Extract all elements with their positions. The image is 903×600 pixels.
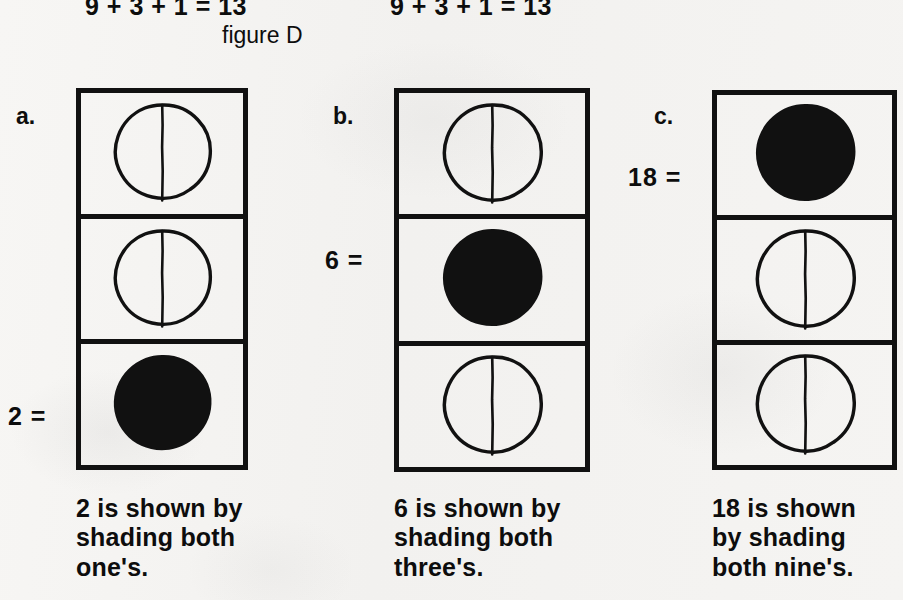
box-b-cell-3 bbox=[399, 346, 585, 467]
top-equation-left: 9 + 3 + 1 = 13 bbox=[85, 0, 247, 21]
column-letter-a: a. bbox=[16, 103, 35, 130]
box-c-cell-3 bbox=[717, 345, 892, 465]
value-label-c: 18 = bbox=[628, 163, 681, 192]
figure-caption: figure D bbox=[222, 22, 303, 49]
column-letter-c: c. bbox=[654, 103, 673, 130]
caption-a: 2 is shown by shading both one's. bbox=[76, 494, 306, 582]
split-circle-open-icon bbox=[752, 227, 858, 333]
split-circle-open-icon bbox=[439, 353, 545, 459]
box-a-cell-1 bbox=[81, 93, 243, 219]
value-label-b: 6 = bbox=[325, 246, 363, 275]
top-equation-right: 9 + 3 + 1 = 13 bbox=[390, 0, 552, 21]
caption-b: 6 is shown by shading both three's. bbox=[394, 494, 629, 582]
box-a-cell-3 bbox=[81, 344, 243, 465]
box-b-cell-1 bbox=[399, 93, 585, 219]
number-box-b bbox=[394, 88, 590, 472]
filled-circle-icon bbox=[751, 101, 859, 209]
value-label-a: 2 = bbox=[8, 402, 46, 431]
number-box-a bbox=[76, 88, 248, 470]
box-a-cell-2 bbox=[81, 219, 243, 345]
box-c-cell-2 bbox=[717, 220, 892, 345]
split-circle-open-icon bbox=[439, 101, 545, 207]
box-b-cell-2 bbox=[399, 219, 585, 345]
filled-circle-icon bbox=[438, 226, 546, 334]
split-circle-open-icon bbox=[752, 352, 858, 458]
filled-circle-icon bbox=[109, 352, 215, 458]
number-box-c bbox=[712, 90, 897, 470]
box-c-cell-1 bbox=[717, 95, 892, 220]
split-circle-open-icon bbox=[110, 227, 214, 331]
column-letter-b: b. bbox=[333, 103, 353, 130]
figure-d-worksheet: 9 + 3 + 1 = 13 9 + 3 + 1 = 13 figure D a… bbox=[0, 0, 903, 600]
caption-c: 18 is shown by shading both nine's. bbox=[712, 494, 903, 582]
split-circle-open-icon bbox=[110, 101, 214, 205]
